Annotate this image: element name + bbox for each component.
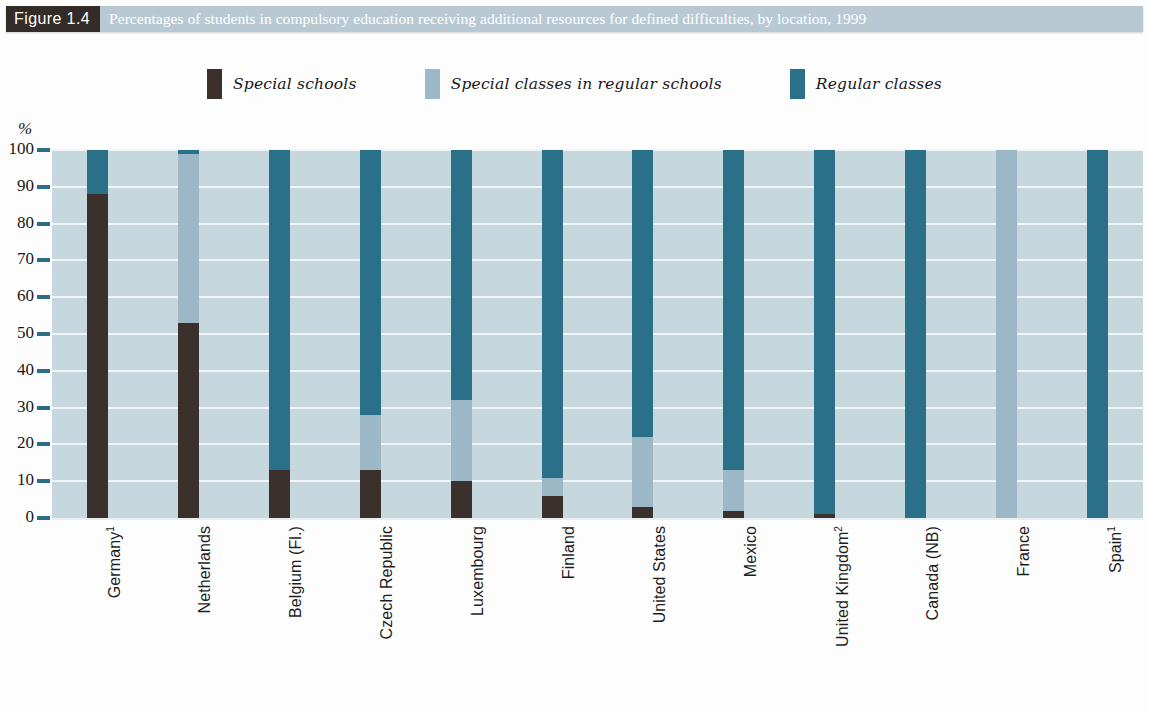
bar-segment bbox=[632, 150, 653, 437]
y-axis-tick bbox=[37, 258, 50, 262]
bar-segment bbox=[451, 150, 472, 400]
gridline bbox=[52, 407, 1143, 409]
figure-page: Figure 1.4 Percentages of students in co… bbox=[0, 0, 1149, 712]
bar-segment bbox=[632, 437, 653, 507]
x-axis-label: Finland bbox=[560, 526, 578, 579]
bar-segment bbox=[451, 400, 472, 481]
y-axis-tick bbox=[37, 479, 50, 483]
bar-segment bbox=[723, 470, 744, 510]
y-axis-tick-label: 100 bbox=[9, 139, 35, 159]
bar-segment bbox=[87, 194, 108, 518]
stacked-bar bbox=[996, 150, 1017, 518]
footnote-marker: 1 bbox=[1106, 526, 1117, 532]
x-axis-label: Czech Republic bbox=[378, 526, 396, 639]
y-axis-tick bbox=[37, 516, 50, 520]
y-axis-tick-label: 40 bbox=[17, 360, 34, 380]
stacked-bar bbox=[814, 150, 835, 518]
x-axis-label: Luxembourg bbox=[469, 526, 487, 616]
x-axis-label: Germany1 bbox=[105, 526, 124, 598]
stacked-bar bbox=[451, 150, 472, 518]
gridline bbox=[52, 186, 1143, 188]
y-axis-tick bbox=[37, 332, 50, 336]
y-axis-tick bbox=[37, 148, 50, 152]
y-axis-tick bbox=[37, 442, 50, 446]
y-axis-tick-label: 20 bbox=[17, 433, 34, 453]
gridline bbox=[52, 223, 1143, 225]
gridline bbox=[52, 443, 1143, 445]
bar-segment bbox=[723, 511, 744, 518]
x-axis-label: Belgium (Fl.) bbox=[287, 526, 305, 618]
gridline bbox=[52, 296, 1143, 298]
bar-segment bbox=[87, 150, 108, 194]
footnote-marker: 2 bbox=[833, 526, 844, 532]
y-axis-tick-label: 80 bbox=[17, 213, 34, 233]
y-axis-tick-label: 50 bbox=[17, 323, 34, 343]
bar-segment bbox=[632, 507, 653, 518]
x-axis-label: Mexico bbox=[742, 526, 760, 577]
footnote-marker: 1 bbox=[105, 526, 116, 532]
bar-segment bbox=[178, 323, 199, 518]
gridline bbox=[52, 370, 1143, 372]
y-axis-tick bbox=[37, 222, 50, 226]
x-axis-label: Netherlands bbox=[196, 526, 214, 613]
plot-wrapper: 1009080706050403020100 Germany1Netherlan… bbox=[0, 0, 1149, 712]
stacked-bar bbox=[269, 150, 290, 518]
y-axis-tick-label: 90 bbox=[17, 176, 34, 196]
x-axis-label: Spain1 bbox=[1106, 526, 1125, 573]
y-axis-tick-label: 60 bbox=[17, 286, 34, 306]
y-axis-tick-label: 30 bbox=[17, 397, 34, 417]
plot-area bbox=[52, 150, 1143, 518]
axis-baseline bbox=[52, 518, 1143, 520]
stacked-bar bbox=[905, 150, 926, 518]
bar-segment bbox=[996, 150, 1017, 518]
y-axis-tick-label: 10 bbox=[17, 470, 34, 490]
stacked-bar bbox=[87, 150, 108, 518]
bar-segment bbox=[178, 154, 199, 323]
bar-segment bbox=[360, 415, 381, 470]
y-axis-labels: 1009080706050403020100 bbox=[0, 150, 34, 518]
gridline bbox=[52, 149, 1143, 151]
x-axis-label: France bbox=[1015, 526, 1033, 576]
stacked-bar bbox=[632, 150, 653, 518]
y-axis-tick bbox=[37, 406, 50, 410]
x-axis-label: United States bbox=[651, 526, 669, 623]
bar-segment bbox=[542, 150, 563, 478]
stacked-bar bbox=[360, 150, 381, 518]
gridline bbox=[52, 259, 1143, 261]
y-axis-tick bbox=[37, 185, 50, 189]
y-axis-tick-label: 70 bbox=[17, 249, 34, 269]
gridline bbox=[52, 333, 1143, 335]
bar-segment bbox=[451, 481, 472, 518]
stacked-bar bbox=[1087, 150, 1108, 518]
stacked-bar bbox=[542, 150, 563, 518]
x-axis-label: United Kingdom2 bbox=[833, 526, 852, 647]
y-axis-tick-label: 0 bbox=[26, 507, 35, 527]
gridline bbox=[52, 480, 1143, 482]
bar-segment bbox=[905, 150, 926, 518]
y-axis-tick bbox=[37, 369, 50, 373]
stacked-bar bbox=[178, 150, 199, 518]
bar-segment bbox=[1087, 150, 1108, 518]
bar-segment bbox=[360, 470, 381, 518]
bar-segment bbox=[723, 150, 744, 470]
bar-segment bbox=[542, 496, 563, 518]
bar-segment bbox=[360, 150, 381, 415]
bar-segment bbox=[814, 150, 835, 514]
stacked-bar bbox=[723, 150, 744, 518]
x-axis-labels: Germany1NetherlandsBelgium (Fl.)Czech Re… bbox=[52, 522, 1143, 710]
x-axis-label: Canada (NB) bbox=[924, 526, 942, 620]
bar-segment bbox=[269, 470, 290, 518]
bar-segment bbox=[269, 150, 290, 470]
bar-segment bbox=[542, 478, 563, 496]
y-axis-tick bbox=[37, 295, 50, 299]
